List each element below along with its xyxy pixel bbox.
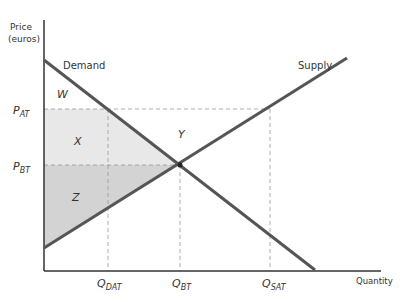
q-dat-label: QDAT (97, 277, 123, 292)
region-y-label: Y (178, 128, 186, 141)
region-w-label: W (57, 88, 69, 101)
region-x-label: X (73, 135, 82, 148)
region-z-label: Z (71, 191, 80, 204)
supply-label: Supply (298, 60, 332, 71)
y-axis-label-line2: (euros) (8, 34, 40, 44)
region-x-fill (44, 109, 180, 165)
p-at-label: PAT (13, 104, 31, 119)
equilibrium-point (178, 163, 183, 168)
supply-demand-diagram: Price (euros) Quantity Demand Supply PAT… (0, 0, 407, 302)
demand-label: Demand (63, 60, 105, 71)
y-axis-label-line1: Price (10, 22, 32, 32)
x-axis-label: Quantity (356, 276, 393, 286)
q-sat-label: QSAT (262, 277, 287, 292)
p-bt-label: PBT (13, 160, 31, 175)
q-bt-label: QBT (172, 277, 192, 292)
